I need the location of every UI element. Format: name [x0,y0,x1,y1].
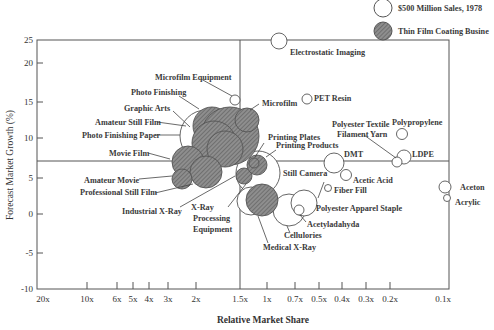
y-tick-label: -10 [21,284,33,294]
bubble-chart: 25 20 15 10 5 0 -5 -10 Forecast Market G… [0,0,494,330]
x-tick-label: 0.3x [358,294,374,304]
bubble-microfilm [235,108,259,132]
x-tick-label: 10x [80,294,94,304]
x-tick-label: 5x [129,294,139,304]
bubbles [172,33,451,226]
label-xray-processing-2: Processing [193,214,231,223]
bubble-aceton [439,181,451,193]
label-medical-xray: Medical X-Ray [263,243,317,252]
bubble-fiber-fill [325,185,332,192]
y-tick-label: 10 [24,133,34,143]
label-aceton: Aceton [460,183,485,192]
label-pet-resin: PET Resin [314,94,352,103]
label-polyester-textile-2: Filament Yarn [337,130,388,139]
label-cellulories: Cellulories [284,231,322,240]
label-polypropylene: Polypropylene [392,118,443,127]
x-tick-label: 3x [164,294,174,304]
x-tick-label: 1.5x [232,294,248,304]
x-tick-label: 2x [192,294,202,304]
bubble-acrylic [444,195,451,202]
label-photo-finishing: Photo Finishing [131,88,187,97]
x-tick-label: 0.7x [287,294,303,304]
legend-open-bubble-icon [374,0,392,17]
label-electrostatic-imaging: Electrostatic Imaging [290,48,366,57]
label-ldpe: LDPE [412,150,434,159]
label-professional-still-film: Professional Still Film [80,188,157,197]
x-tick-label: 20x [36,294,50,304]
y-tick-label: 25 [24,35,34,45]
bubble-acetyladahyda [294,205,304,215]
label-graphic-arts: Graphic Arts [124,104,170,113]
x-tick-label: 0.2x [382,294,398,304]
label-dmt: DMT [344,150,364,159]
bubble-microfilm-equipment [230,95,240,105]
label-photo-finishing-paper: Photo Finishing Paper [82,131,161,140]
label-microfilm: Microfilm [262,99,297,108]
legend: $500 Million Sales, 1978 Thin Film Coati… [374,0,489,40]
y-tick-label: 5 [29,173,34,183]
label-xray-processing-1: X-Ray [191,203,215,212]
bubble-acetic-acid [341,170,352,181]
label-printing-products: Printing Products [276,141,338,150]
bubble-pet-resin [302,94,312,104]
y-tick-label: -5 [26,248,34,258]
label-xray-processing-3: Equipment [193,225,232,234]
label-acetyladahyda: Acetyladahyda [307,220,359,229]
x-tick-label: 1x [263,294,273,304]
bubble-professional-still-film [190,156,222,188]
legend-label-hatched: Thin Film Coating Busine [398,27,489,36]
label-polyester-apparel-staple: Polyester Apparel Staple [316,204,402,213]
x-axis: 20x 10x 6x 5x 4x 3x 2x 1.5x 1x 0.7x 0.5x… [36,282,451,325]
label-microfilm-equipment: Microfilm Equipment [155,73,232,82]
y-tick-label: 20 [24,58,34,68]
y-tick-label: 15 [24,97,34,107]
label-amateur-still-film: Amateur Still Film [95,118,161,127]
bubble-printing-plates [249,158,259,168]
legend-hatched-bubble-icon [374,22,392,40]
label-polyester-textile-1: Polyester Textile [332,120,390,129]
y-axis-title: Forecast Market Growth (%) [5,110,16,220]
bubble-medical-xray [246,184,278,216]
x-tick-label: 0.4x [334,294,350,304]
x-tick-label: 0.5x [311,294,327,304]
bubble-amateur-movie [172,169,192,189]
label-industrial-xray: Industrial X-Ray [122,207,183,216]
bubble-electrostatic-imaging [271,33,287,49]
label-amateur-movie: Amateur Movie [84,176,139,185]
bubble-polyester-textile [392,157,402,167]
label-movie-film: Movie Film [109,149,149,158]
label-acetic-acid: Acetic Acid [353,176,393,185]
x-tick-label: 6x [113,294,123,304]
legend-label-open: $500 Million Sales, 1978 [398,4,482,13]
label-still-camera: Still Camera [283,169,327,178]
x-tick-label: 0.1x [435,294,451,304]
bubble-polypropylene [397,129,408,140]
x-axis-title: Relative Market Share [217,315,309,325]
y-tick-label: 0 [29,209,34,219]
label-acrylic: Acrylic [455,198,481,207]
x-tick-label: 4x [145,294,155,304]
label-fiber-fill: Fiber Fill [334,186,368,195]
